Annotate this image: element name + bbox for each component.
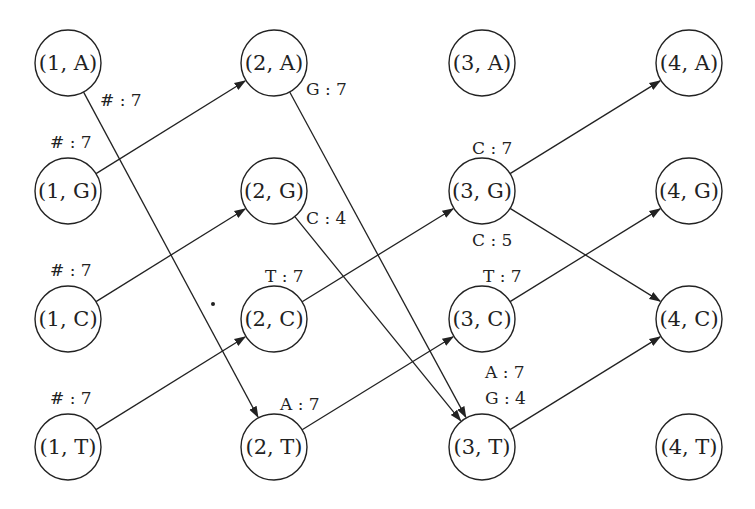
node-1A: (1, A) bbox=[35, 30, 101, 96]
edge-label: A : 7 bbox=[484, 362, 525, 382]
edge-label: A : 7 bbox=[279, 394, 320, 414]
node-label: (3, C) bbox=[452, 307, 511, 331]
node-4T: (4, T) bbox=[656, 414, 722, 480]
edge-label: C : 4 bbox=[306, 208, 346, 228]
edge-3G-4A bbox=[510, 81, 660, 174]
node-1T: (1, T) bbox=[35, 414, 101, 480]
edge-label: # : 7 bbox=[50, 388, 92, 408]
edges-layer bbox=[84, 81, 660, 430]
node-3G: (3, G) bbox=[449, 158, 515, 224]
edge-label: T : 7 bbox=[483, 266, 522, 286]
node-label: (4, A) bbox=[660, 51, 718, 75]
edge-label: # : 7 bbox=[50, 260, 92, 280]
trellis-diagram: (1, A)(1, G)(1, C)(1, T)(2, A)(2, G)(2, … bbox=[0, 0, 755, 509]
node-3C: (3, C) bbox=[449, 286, 515, 352]
node-2T: (2, T) bbox=[241, 414, 307, 480]
node-label: (3, G) bbox=[452, 179, 512, 203]
node-2G: (2, G) bbox=[241, 158, 307, 224]
stray-dot bbox=[211, 302, 215, 306]
node-4G: (4, G) bbox=[656, 158, 722, 224]
node-label: (1, T) bbox=[39, 435, 96, 459]
edge-label: G : 4 bbox=[485, 388, 526, 408]
edge-label: T : 7 bbox=[265, 266, 304, 286]
node-label: (2, G) bbox=[244, 179, 304, 203]
node-label: (4, G) bbox=[659, 179, 719, 203]
node-label: (1, C) bbox=[38, 307, 97, 331]
node-label: (2, T) bbox=[245, 435, 302, 459]
node-label: (2, C) bbox=[244, 307, 303, 331]
node-4A: (4, A) bbox=[656, 30, 722, 96]
node-3A: (3, A) bbox=[449, 30, 515, 96]
edge-2G-3T bbox=[295, 217, 461, 421]
node-label: (4, T) bbox=[660, 435, 717, 459]
edge-1T-2C bbox=[96, 337, 245, 430]
node-2C: (2, C) bbox=[241, 286, 307, 352]
edge-label: C : 7 bbox=[472, 138, 512, 158]
edge-1C-2G bbox=[96, 209, 245, 302]
edge-labels-layer: # : 7# : 7# : 7# : 7G : 7C : 4T : 7A : 7… bbox=[50, 79, 526, 414]
node-1G: (1, G) bbox=[35, 158, 101, 224]
node-4C: (4, C) bbox=[656, 286, 722, 352]
node-label: (4, C) bbox=[659, 307, 718, 331]
node-label: (3, T) bbox=[453, 435, 510, 459]
edge-label: C : 5 bbox=[472, 230, 512, 250]
edge-label: # : 7 bbox=[50, 132, 92, 152]
node-label: (2, A) bbox=[245, 51, 303, 75]
node-label: (1, A) bbox=[39, 51, 97, 75]
node-label: (1, G) bbox=[38, 179, 98, 203]
edge-label: # : 7 bbox=[100, 90, 142, 110]
node-3T: (3, T) bbox=[449, 414, 515, 480]
edge-3T-4C bbox=[510, 337, 660, 430]
node-1C: (1, C) bbox=[35, 286, 101, 352]
edge-label: G : 7 bbox=[306, 79, 347, 99]
node-2A: (2, A) bbox=[241, 30, 307, 96]
node-label: (3, A) bbox=[453, 51, 511, 75]
diagram-svg: (1, A)(1, G)(1, C)(1, T)(2, A)(2, G)(2, … bbox=[0, 0, 755, 509]
